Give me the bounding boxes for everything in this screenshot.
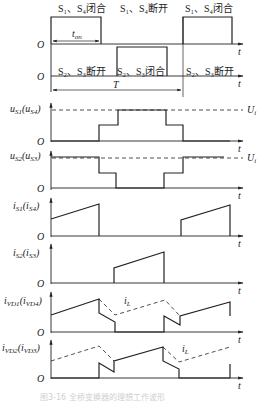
s23-gate-panel (51, 17, 243, 97)
il-dashed-curve (99, 299, 180, 316)
ivd2-waveform (51, 347, 230, 378)
il-label: iL (182, 343, 189, 356)
figure-caption: 图3-16 全桥变换器的理想工作波形 (40, 392, 165, 402)
t-axis-label: t (238, 380, 241, 391)
il-dashed-curve-2 (163, 347, 230, 362)
labels: S₁、S₄闭合 S₁、S₄断开 S₁、S₄闭合 S₂、S₃断开 S₂、S₃闭合 … (2, 2, 256, 402)
is1-ramp-2 (181, 205, 230, 236)
ivd2-panel (51, 340, 243, 379)
t-axis-label: t (238, 190, 241, 201)
ui-level-label: Ui (247, 104, 256, 117)
us2-axis-label: uS2(uS3) (10, 150, 41, 163)
label-s14-closed-1: S₁、S₄闭合 (58, 2, 106, 14)
is2-axis-label: iS2(iS3) (13, 247, 40, 260)
us1-panel (51, 103, 243, 142)
us2-waveform (51, 157, 224, 188)
is1-ramp-1 (51, 204, 99, 236)
is1-axis-label: iS1(iS4) (13, 200, 40, 213)
origin-label: O (37, 373, 44, 384)
origin-label: O (37, 136, 44, 147)
il-label: iL (124, 295, 131, 308)
origin-label: O (37, 278, 44, 289)
is2-panel (51, 244, 243, 284)
t-axis-label: t (238, 143, 241, 154)
us2-panel (51, 151, 243, 190)
origin-label: O (37, 71, 44, 82)
ui-level-label: Ui (247, 152, 256, 165)
label-s23-open-2: S₂、S₃断开 (186, 65, 234, 77)
origin-label: O (37, 231, 44, 242)
origin-label: O (37, 183, 44, 194)
period-label: T (113, 79, 120, 90)
ivd1-panel (51, 292, 243, 333)
t-axis-label: t (238, 78, 241, 89)
ivd1-waveform (51, 299, 230, 332)
t-axis-label: t (238, 285, 241, 296)
is2-ramp (114, 252, 164, 283)
label-s23-closed: S₂、S₃闭合 (117, 65, 165, 77)
t-axis-label: t (238, 46, 241, 57)
s14-pulse-2 (183, 17, 232, 44)
ivd1-axis-label: iVD1(iVD4) (4, 295, 43, 308)
origin-label: O (37, 39, 44, 50)
ton-label: ton (72, 28, 82, 41)
label-s14-closed-2: S₁、S₄闭合 (185, 2, 233, 14)
t-axis-label: t (238, 238, 241, 249)
origin-label: O (37, 327, 44, 338)
label-s23-open-1: S₂、S₃断开 (58, 65, 106, 77)
ivd2-axis-label: iVD2(iVD3) (2, 342, 41, 355)
us1-axis-label: uS1(uS4) (10, 103, 41, 116)
is1-panel (51, 198, 243, 237)
waveform-figure: S₁、S₄闭合 S₁、S₄断开 S₁、S₄闭合 S₂、S₃断开 S₂、S₃闭合 … (0, 0, 261, 403)
label-s14-open: S₁、S₄断开 (120, 2, 168, 14)
il-dashed-curve-1 (51, 346, 114, 361)
us1-waveform (51, 110, 230, 141)
t-axis-label: t (238, 334, 241, 345)
